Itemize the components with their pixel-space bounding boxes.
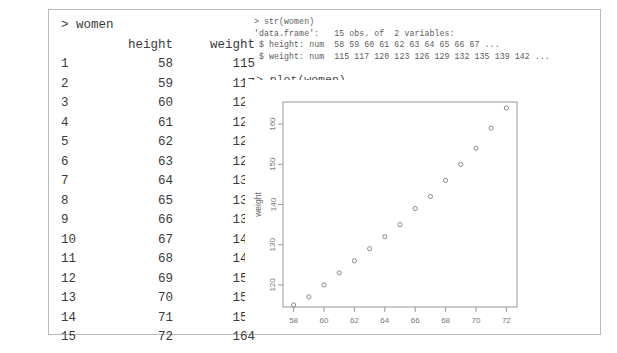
y-tick-label: 120 [269, 278, 278, 292]
x-tick-label: 62 [350, 316, 359, 325]
cell-weight: 159 [173, 309, 255, 329]
scatter-plot-device: 5860626466687072 120130140150160 heightw… [245, 80, 540, 330]
row-index: 8 [61, 192, 95, 212]
row-index: 1 [61, 55, 95, 75]
table-row: 259117 [61, 75, 255, 95]
x-tick-label: 60 [320, 316, 329, 325]
y-tick-label: 140 [269, 197, 278, 211]
table-row: 461123 [61, 114, 255, 134]
cell-height: 64 [95, 172, 173, 192]
table-row: 360120 [61, 94, 255, 114]
row-index: 12 [61, 270, 95, 290]
cell-weight: 132 [173, 172, 255, 192]
table-row: 1572164 [61, 328, 255, 348]
cell-weight: 117 [173, 75, 255, 95]
women-dataframe-table: height weight 15811525911736012046112356… [61, 36, 255, 348]
x-tick-label: 64 [380, 316, 389, 325]
cell-weight: 129 [173, 153, 255, 173]
cell-weight: 154 [173, 289, 255, 309]
str-output-line: 'data.frame': 15 obs. of 2 variables: [254, 28, 596, 40]
cell-height: 70 [95, 289, 173, 309]
x-tick-label: 58 [289, 316, 298, 325]
row-index: 2 [61, 75, 95, 95]
x-tick-label: 70 [472, 316, 481, 325]
table-row: 865135 [61, 192, 255, 212]
cell-height: 59 [95, 75, 173, 95]
table-row: 1269150 [61, 270, 255, 290]
row-index: 11 [61, 250, 95, 270]
row-index: 6 [61, 153, 95, 173]
scatter-plot-svg: 5860626466687072 120130140150160 heightw… [245, 80, 540, 330]
command-str-women: > str(women) [254, 16, 596, 28]
row-index: 10 [61, 231, 95, 251]
table-row: 663129 [61, 153, 255, 173]
str-output-block: 'data.frame': 15 obs. of 2 variables: $ … [254, 28, 596, 63]
cell-height: 68 [95, 250, 173, 270]
str-output-line: $ weight: num 115 117 120 123 126 129 13… [254, 51, 596, 63]
cell-height: 60 [95, 94, 173, 114]
command-women: > women [61, 16, 271, 36]
cell-height: 65 [95, 192, 173, 212]
cell-height: 58 [95, 55, 173, 75]
cell-height: 62 [95, 133, 173, 153]
x-tick-label: 72 [502, 316, 511, 325]
cell-weight: 135 [173, 192, 255, 212]
table-row: 966139 [61, 211, 255, 231]
cell-weight: 142 [173, 231, 255, 251]
x-tick-label: 66 [411, 316, 420, 325]
row-index: 7 [61, 172, 95, 192]
plot-background [245, 80, 540, 330]
cell-weight: 146 [173, 250, 255, 270]
cell-weight: 123 [173, 114, 255, 134]
table-row: 764132 [61, 172, 255, 192]
y-axis-title: weight [253, 192, 263, 218]
cell-height: 72 [95, 328, 173, 348]
cell-weight: 164 [173, 328, 255, 348]
column-header-weight: weight [173, 36, 255, 56]
y-tick-label: 150 [269, 157, 278, 171]
column-header-index [61, 36, 95, 56]
table-row: 1471159 [61, 309, 255, 329]
cell-height: 69 [95, 270, 173, 290]
table-row: 1067142 [61, 231, 255, 251]
str-output-line: $ height: num 58 59 60 61 62 63 64 65 66… [254, 39, 596, 51]
r-console-window: > women height weight 158115259117360120… [48, 9, 601, 335]
cell-weight: 120 [173, 94, 255, 114]
cell-weight: 150 [173, 270, 255, 290]
cell-height: 63 [95, 153, 173, 173]
cell-height: 67 [95, 231, 173, 251]
column-header-height: height [95, 36, 173, 56]
table-header-row: height weight [61, 36, 255, 56]
row-index: 9 [61, 211, 95, 231]
x-tick-label: 68 [441, 316, 450, 325]
row-index: 14 [61, 309, 95, 329]
cell-height: 61 [95, 114, 173, 134]
cell-weight: 139 [173, 211, 255, 231]
table-row: 1168146 [61, 250, 255, 270]
dataframe-output-pane: > women height weight 158115259117360120… [61, 16, 271, 348]
row-index: 15 [61, 328, 95, 348]
str-and-plot-pane: > str(women) 'data.frame': 15 obs. of 2 … [254, 16, 596, 86]
cell-height: 71 [95, 309, 173, 329]
table-row: 562126 [61, 133, 255, 153]
cell-height: 66 [95, 211, 173, 231]
y-tick-label: 130 [269, 237, 278, 251]
cell-weight: 115 [173, 55, 255, 75]
row-index: 5 [61, 133, 95, 153]
cell-weight: 126 [173, 133, 255, 153]
row-index: 4 [61, 114, 95, 134]
y-tick-label: 160 [269, 117, 278, 131]
table-row: 1370154 [61, 289, 255, 309]
row-index: 13 [61, 289, 95, 309]
row-index: 3 [61, 94, 95, 114]
table-row: 158115 [61, 55, 255, 75]
